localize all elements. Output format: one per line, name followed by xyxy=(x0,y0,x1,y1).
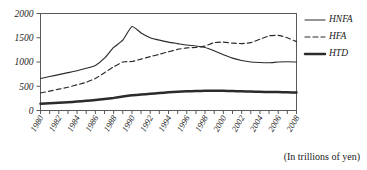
x-tick-label: 1992 xyxy=(138,113,156,133)
y-tick-label: 1500 xyxy=(15,33,34,43)
y-tick-label: 500 xyxy=(19,82,34,92)
series-line-htd xyxy=(41,91,297,104)
x-tick-label: 2004 xyxy=(248,113,266,133)
y-tick-label: 2000 xyxy=(15,9,34,19)
legend-label-htd: HTD xyxy=(328,48,348,58)
legend-label-hfa: HFA xyxy=(328,31,346,41)
y-axis-labels: 0500100015002000 xyxy=(15,9,34,116)
series-line-hnfa xyxy=(41,27,297,79)
line-chart: 0500100015002000 19801982198419861988199… xyxy=(0,0,367,170)
y-tick-label: 0 xyxy=(29,106,34,116)
x-tick-label: 2002 xyxy=(229,113,247,133)
series-line-hfa xyxy=(41,35,297,93)
x-tick-label: 1996 xyxy=(174,113,192,133)
x-tick-label: 1984 xyxy=(65,113,83,133)
x-tick-label: 1994 xyxy=(156,113,174,133)
series-lines xyxy=(41,27,297,104)
x-tick-label: 1998 xyxy=(193,113,211,133)
x-tick-label: 2000 xyxy=(211,113,229,133)
x-tick-label: 1990 xyxy=(120,113,138,133)
x-axis-labels: 1980198219841986198819901992199419961998… xyxy=(28,113,302,133)
chart-legend: HNFAHFAHTD xyxy=(305,14,353,58)
x-tick-label: 1988 xyxy=(101,113,119,133)
units-note: (In trillions of yen) xyxy=(284,151,360,163)
y-axis-ticks xyxy=(37,14,41,111)
y-tick-label: 1000 xyxy=(15,57,34,67)
legend-label-hnfa: HNFA xyxy=(328,14,353,24)
x-tick-label: 2008 xyxy=(284,113,302,133)
x-tick-label: 2006 xyxy=(266,113,284,133)
x-tick-label: 1980 xyxy=(28,113,46,133)
x-tick-label: 1982 xyxy=(46,113,64,133)
x-axis-ticks xyxy=(41,111,297,115)
chart-canvas: 0500100015002000 19801982198419861988199… xyxy=(0,0,367,170)
x-tick-label: 1986 xyxy=(83,113,101,133)
